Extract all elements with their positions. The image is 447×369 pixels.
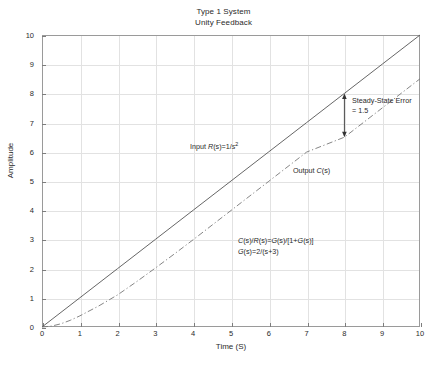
y-axis-tick-label: 7 xyxy=(30,118,34,127)
chart-title-line-2: Unity Feedback xyxy=(0,17,447,28)
x-axis-tick-label: 4 xyxy=(191,329,195,338)
sse-text-line-1: Steady-State Error xyxy=(352,96,412,106)
input-label-exponent: 2 xyxy=(235,141,238,147)
output-curve xyxy=(42,79,420,327)
x-axis-tick-label: 10 xyxy=(416,329,424,338)
x-axis-tick-label: 1 xyxy=(78,329,82,338)
input-label-prefix: Input xyxy=(190,142,208,151)
y-axis-tick-label: 2 xyxy=(30,264,34,273)
output-curve-label: Output C(s) xyxy=(293,166,330,176)
eq1-b: (s)/ xyxy=(243,236,253,245)
x-axis-tick-label: 8 xyxy=(342,329,346,338)
x-axis-tick-label: 6 xyxy=(267,329,271,338)
output-label-suffix: (s) xyxy=(322,166,330,175)
eq1-d: (s)= xyxy=(259,236,272,245)
transfer-function-line-1: C(s)/R(s)=G(s)/[1+G(s)] xyxy=(238,236,314,247)
x-axis-tick xyxy=(421,323,422,327)
output-label-prefix: Output xyxy=(293,166,317,175)
x-axis-tick-label: 5 xyxy=(229,329,233,338)
data-curves xyxy=(42,35,420,327)
y-axis-tick-label: 6 xyxy=(30,147,34,156)
transfer-function-line-2: G(s)=2/(s+3) xyxy=(238,247,314,258)
input-label-mid: (s)=1/ xyxy=(213,142,232,151)
y-axis-title: Amplitude xyxy=(6,121,15,201)
eq2-b: (s)=2/(s+3) xyxy=(244,247,279,256)
sse-arrowhead-bottom xyxy=(342,132,347,138)
transfer-function-annotation: C(s)/R(s)=G(s)/[1+G(s)] G(s)=2/(s+3) xyxy=(238,236,314,257)
input-curve-label: Input R(s)=1/s2 xyxy=(190,139,238,152)
sse-text-line-2: = 1.5 xyxy=(352,106,412,116)
steady-state-error-annotation: Steady-State Error = 1.5 xyxy=(352,96,412,116)
y-axis-tick-label: 8 xyxy=(30,89,34,98)
chart-canvas: Type 1 System Unity Feedback 01234567891… xyxy=(0,0,447,369)
x-axis-tick-label: 3 xyxy=(153,329,157,338)
input-curve xyxy=(42,35,420,327)
y-axis-tick-label: 10 xyxy=(26,31,34,40)
eq1-h: (s)] xyxy=(303,236,313,245)
x-axis-tick-label: 7 xyxy=(305,329,309,338)
y-axis-tick-label: 5 xyxy=(30,177,34,186)
x-axis-tick-labels: 012345678910 xyxy=(42,329,420,341)
x-axis-title: Time (S) xyxy=(42,342,420,351)
y-axis-tick-label: 3 xyxy=(30,235,34,244)
x-axis-tick-label: 2 xyxy=(116,329,120,338)
x-axis-tick-label: 0 xyxy=(40,329,44,338)
y-axis-tick-label: 1 xyxy=(30,293,34,302)
x-axis-tick-label: 9 xyxy=(380,329,384,338)
chart-title: Type 1 System Unity Feedback xyxy=(0,6,447,28)
eq1-f: (s)/[1+ xyxy=(277,236,298,245)
y-axis-tick-label: 0 xyxy=(30,323,34,332)
chart-title-line-1: Type 1 System xyxy=(0,6,447,17)
y-axis-tick-label: 4 xyxy=(30,206,34,215)
y-axis-tick-label: 9 xyxy=(30,60,34,69)
